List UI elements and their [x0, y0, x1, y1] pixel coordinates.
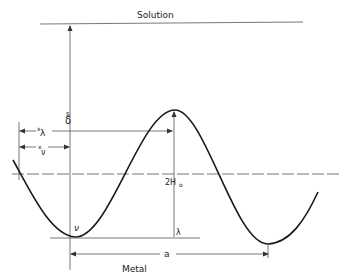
x-lambda-subscript: λ	[40, 128, 46, 138]
sinusoidal-surface-curve	[13, 110, 318, 244]
nu-label: ν	[74, 223, 79, 233]
lambda-label: λ	[176, 228, 181, 237]
two-h0-subscript: o	[179, 181, 183, 188]
solution-label: Solution	[137, 10, 174, 20]
metal-label: Metal	[122, 264, 147, 274]
delta-s-subscript: s	[66, 110, 70, 118]
a-label: a	[164, 249, 170, 259]
solution-boundary-line	[40, 22, 303, 24]
wave-diagram: Solution δ s x λ x ν 2H o λ ν a Metal	[0, 0, 349, 277]
x-nu-subscript: ν	[41, 148, 46, 157]
two-h0-label: 2H	[165, 178, 176, 187]
